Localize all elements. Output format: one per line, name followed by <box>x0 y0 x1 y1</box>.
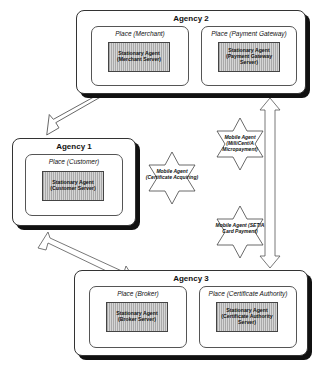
place-title: Place (Payment Gateway) <box>202 30 296 37</box>
place-title: Place (Certificate Authority) <box>200 290 296 297</box>
place-payment-gateway: Place (Payment Gateway) Stationary Agent… <box>201 26 297 86</box>
mobile-agent-certificate-acquiring: Mobile Agent (Certificate Acquiring) <box>145 151 199 205</box>
agency-title: Agency 3 <box>75 274 307 283</box>
place-customer: Place (Customer) Stationary Agent (Custo… <box>25 154 123 216</box>
mobile-agent-card-payment: Mobile Agent (SET/A Card Payment) <box>213 205 267 259</box>
stationary-agent: Stationary Agent (Payment Gateway Server… <box>218 42 280 72</box>
place-merchant: Place (Merchant) Stationary Agent (Merch… <box>91 26 189 86</box>
stationary-agent: Stationary Agent (Broker Server) <box>106 302 168 332</box>
stationary-agent: Stationary Agent (Merchant Server) <box>108 42 170 72</box>
mobile-agent-label: Mobile Agent (SET/A Card Payment) <box>213 222 267 234</box>
agency-title: Agency 2 <box>77 14 305 23</box>
place-title: Place (Customer) <box>26 158 122 165</box>
mobile-agent-micropayment: Mobile Agent (MilliCent/A Micropayment) <box>213 117 267 171</box>
agency-2: Agency 2 Place (Merchant) Stationary Age… <box>76 10 306 94</box>
place-broker: Place (Broker) Stationary Agent (Broker … <box>89 286 187 348</box>
agency-1: Agency 1 Place (Customer) Stationary Age… <box>12 138 136 226</box>
agency-3: Agency 3 Place (Broker) Stationary Agent… <box>74 270 308 356</box>
mobile-agent-label: Mobile Agent (MilliCent/A Micropayment) <box>213 134 267 152</box>
mobile-agent-label: Mobile Agent (Certificate Acquiring) <box>145 168 199 180</box>
stationary-agent: Stationary Agent (Customer Server) <box>42 171 104 201</box>
place-title: Place (Broker) <box>90 290 186 297</box>
place-title: Place (Merchant) <box>92 30 188 37</box>
place-certificate-authority: Place (Certificate Authority) Stationary… <box>199 286 297 348</box>
stationary-agent: Stationary Agent (Certificate Authority … <box>216 302 278 332</box>
agency-title: Agency 1 <box>13 142 135 151</box>
